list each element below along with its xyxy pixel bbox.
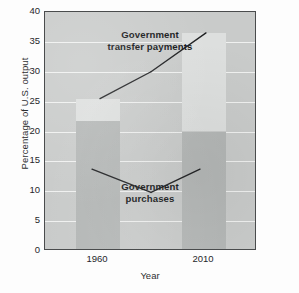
y-tick-label: 10 — [18, 186, 40, 196]
y-tick-label: 25 — [18, 96, 40, 106]
annotation-purchases-line2: purchases — [45, 193, 255, 205]
annotation-transfer-payments-line1: Government — [45, 29, 255, 41]
plot-inner: Government transfer payments Government … — [45, 12, 255, 249]
pointer-line-transfers-left — [100, 72, 151, 99]
y-tick-label: 15 — [18, 156, 40, 166]
y-tick-label: 0 — [18, 245, 40, 255]
y-tick-label: 40 — [18, 6, 40, 16]
annotation-purchases-line1: Government — [45, 181, 255, 193]
annotation-transfer-payments-line2: transfer payments — [45, 41, 255, 53]
annotation-transfer-payments: Government transfer payments — [45, 29, 255, 52]
chart-figure: Percentage of U.S. output 40353025201510… — [0, 0, 299, 293]
x-axis-tick-labels: 19602010 — [44, 253, 256, 267]
y-tick-label: 30 — [18, 66, 40, 76]
y-axis-tick-labels: 4035302520151050 — [12, 0, 40, 293]
x-tick-label: 1960 — [67, 253, 127, 264]
y-tick-label: 20 — [18, 126, 40, 136]
annotation-purchases: Government purchases — [45, 181, 255, 204]
x-tick-label: 2010 — [173, 253, 233, 264]
y-tick-label: 5 — [18, 215, 40, 225]
plot-area: Government transfer payments Government … — [44, 11, 256, 250]
x-axis-label: Year — [44, 270, 256, 281]
y-tick-label: 35 — [18, 36, 40, 46]
